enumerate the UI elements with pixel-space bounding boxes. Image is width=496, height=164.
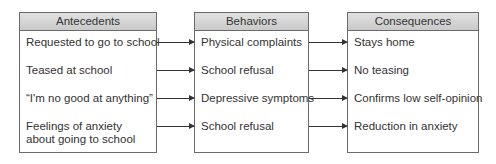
- antecedent-item: Feelings of anxiety about going to schoo…: [26, 120, 150, 146]
- behavior-item: School refusal: [201, 64, 274, 77]
- arrow-icon: [157, 70, 194, 71]
- behaviors-box: Behaviors Physical complaints School ref…: [194, 12, 309, 153]
- consequence-item: Confirms low self-opinion: [354, 92, 482, 105]
- arrow-icon: [309, 126, 347, 127]
- arrow-icon: [309, 98, 347, 99]
- behavior-item: School refusal: [201, 120, 274, 133]
- behavior-item: Depressive symptoms: [201, 92, 314, 105]
- antecedent-item: “I'm no good at anything”: [26, 92, 153, 105]
- antecedents-box: Antecedents Requested to go to school Te…: [19, 12, 157, 153]
- arrow-icon: [157, 42, 194, 43]
- antecedent-item: Requested to go to school: [26, 36, 160, 49]
- consequences-header: Consequences: [348, 13, 478, 31]
- consequence-item: Reduction in anxiety: [354, 120, 458, 133]
- antecedents-header: Antecedents: [20, 13, 156, 31]
- consequences-box: Consequences Stays home No teasing Confi…: [347, 12, 479, 153]
- arrow-icon: [157, 98, 194, 99]
- arrow-icon: [309, 42, 347, 43]
- behavior-item: Physical complaints: [201, 36, 302, 49]
- consequence-item: No teasing: [354, 64, 409, 77]
- arrow-icon: [309, 70, 347, 71]
- antecedent-item: Teased at school: [26, 64, 112, 77]
- behaviors-header: Behaviors: [195, 13, 308, 31]
- arrow-icon: [157, 126, 194, 127]
- consequence-item: Stays home: [354, 36, 415, 49]
